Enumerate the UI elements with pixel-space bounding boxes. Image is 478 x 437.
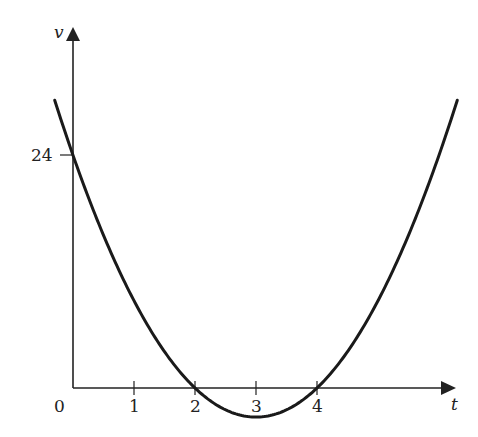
- velocity-time-graph: v t 24 0 1 2 3 4: [0, 0, 478, 437]
- x-tick-label-2: 2: [190, 396, 201, 416]
- x-axis-arrow-icon: [441, 381, 456, 395]
- x-tick-label-1: 1: [129, 396, 140, 416]
- origin-label: 0: [54, 396, 65, 416]
- x-tick-label-4: 4: [312, 396, 323, 416]
- y-axis-label: v: [54, 22, 64, 42]
- velocity-curve: [55, 100, 458, 417]
- x-tick-label-3: 3: [251, 396, 262, 416]
- y-tick-label-24: 24: [31, 145, 53, 165]
- y-axis-arrow-icon: [66, 27, 80, 41]
- x-axis-label: t: [451, 394, 458, 414]
